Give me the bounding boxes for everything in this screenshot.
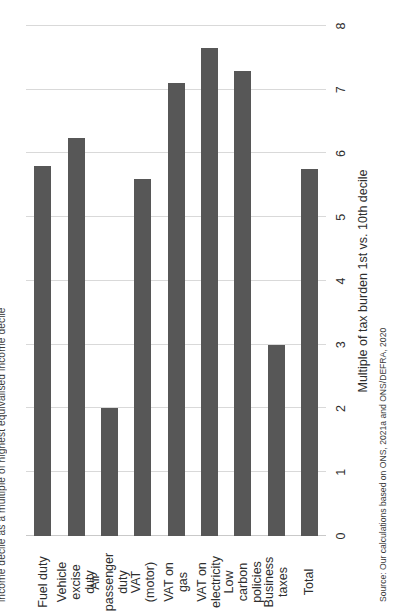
category-label-line: taxes (276, 540, 290, 615)
value-axis-label: Multiple of tax burden 1st vs. 10th deci… (356, 26, 370, 536)
category-label: Businesstaxes (262, 540, 290, 615)
bar (301, 169, 318, 536)
category-label-line: excise (69, 540, 83, 615)
category-label-line: Air (88, 540, 102, 615)
category-label-line: gas (176, 540, 190, 615)
category-label-line: VAT on (162, 540, 176, 615)
category-label-line: carbon (236, 540, 250, 615)
category-label: VAT(motor) (129, 540, 157, 615)
value-tick-label: 5 (334, 214, 348, 221)
plot-area (26, 26, 326, 536)
bar (101, 409, 118, 537)
bar (168, 83, 185, 536)
category-label-line: (motor) (143, 540, 157, 615)
value-tick-label: 2 (334, 405, 348, 412)
category-label: VAT ongas (162, 540, 190, 615)
category-label-line: VAT on (195, 540, 209, 615)
bar (201, 48, 218, 536)
category-label: VAT onelectricity (195, 540, 223, 615)
category-label-line: Total (302, 540, 316, 615)
category-label: Airpassengerduty (88, 540, 130, 615)
bar (34, 166, 51, 536)
category-label: Total (302, 540, 316, 615)
value-tick-label: 7 (334, 86, 348, 93)
value-tick-label: 0 (334, 533, 348, 540)
value-tick-label: 8 (334, 23, 348, 30)
category-label-line: Vehicle (55, 540, 69, 615)
bar (68, 138, 85, 536)
bar (134, 179, 151, 536)
chart-title: income decile as a multiple of highest e… (0, 8, 7, 602)
category-label-line: passenger (102, 540, 116, 615)
category-label-line: Fuel duty (36, 540, 50, 615)
gridline-8 (26, 25, 326, 26)
category-label-line: Low (222, 540, 236, 615)
value-tick-label: 4 (334, 278, 348, 285)
category-label: Lowcarbonpolicies (222, 540, 264, 615)
bar (268, 345, 285, 536)
bar (234, 71, 251, 536)
source-note: Source: Our calculations based on ONS, 2… (378, 328, 388, 602)
category-label-line: VAT (129, 540, 143, 615)
value-tick-label: 6 (334, 150, 348, 157)
category-label: Fuel duty (36, 540, 50, 615)
value-tick-label: 1 (334, 469, 348, 476)
value-tick-label: 3 (334, 341, 348, 348)
category-label-line: Business (262, 540, 276, 615)
